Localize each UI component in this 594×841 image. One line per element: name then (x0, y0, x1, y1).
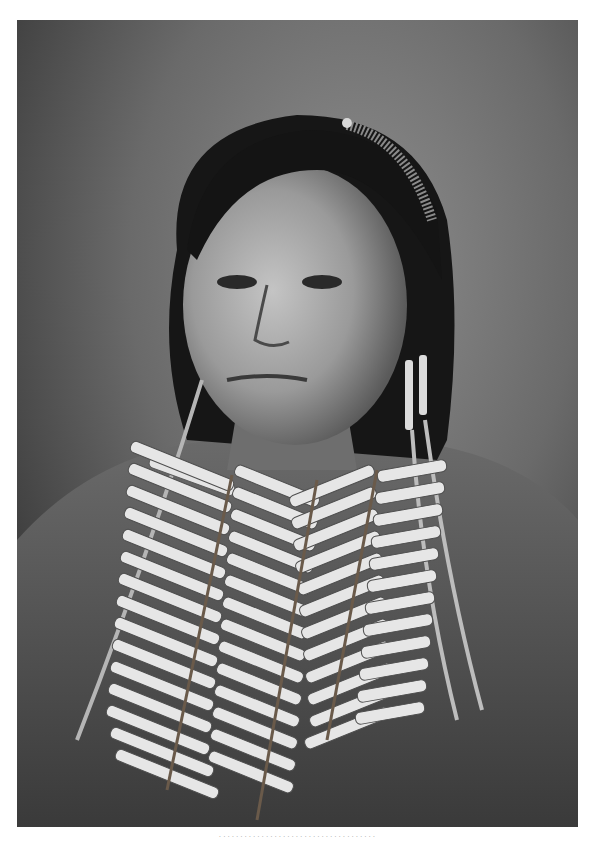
portrait-illustration (17, 20, 578, 827)
portrait-photograph (17, 20, 578, 827)
photo-caption: · · · · · · · · · · · · · · · · · · · · … (0, 833, 594, 841)
